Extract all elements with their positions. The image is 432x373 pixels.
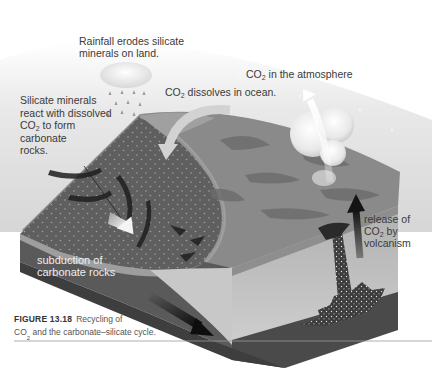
rain-cloud [100,62,152,88]
subduction-label: subduction of carbonate rocks [37,254,115,278]
figure-caption: FIGURE 13.18Recycling of CO2 and the car… [14,313,204,339]
volcanism-label: release of CO2 by volcanism [364,213,411,249]
rainfall-label: Rainfall erodes silicate minerals on lan… [79,35,184,59]
co2-atmosphere-label: CO2 in the atmosphere [246,68,353,80]
figure-number: FIGURE 13.18 [14,314,72,324]
silicate-label: Silicate minerals react with dissolved C… [20,94,112,157]
co2-dissolves-label: CO2 dissolves in ocean. [165,86,276,98]
volcanism-arrow [356,210,360,258]
